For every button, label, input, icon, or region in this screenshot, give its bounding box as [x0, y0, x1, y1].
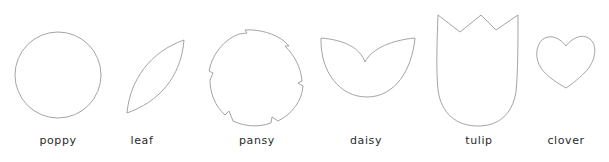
- daisy-shape: [321, 38, 415, 97]
- leaf-label: leaf: [131, 134, 154, 147]
- clover-shape: [537, 36, 595, 88]
- pansy-label: pansy: [239, 134, 275, 147]
- pansy-shape: [209, 30, 303, 126]
- poppy-shape: [15, 32, 101, 118]
- leaf-shape: [127, 40, 184, 113]
- daisy-label: daisy: [350, 134, 382, 147]
- clover-label: clover: [547, 134, 584, 147]
- poppy-label: poppy: [39, 134, 76, 147]
- tulip-label: tulip: [465, 134, 492, 147]
- tulip-shape: [437, 15, 518, 126]
- petal-shapes-diagram: [0, 0, 609, 162]
